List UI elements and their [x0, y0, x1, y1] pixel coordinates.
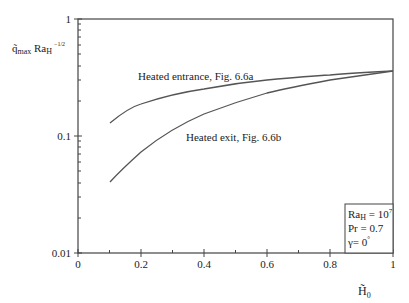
- y-ticks: [74, 19, 82, 253]
- param-ra: RaH = 107: [348, 207, 393, 222]
- x-tick-label: 1: [390, 258, 396, 270]
- y-tick-label: 0.01: [52, 247, 71, 259]
- y-tick-label: 0.1: [57, 130, 71, 142]
- y-axis-label: q̃max RaH−1/2: [12, 41, 65, 56]
- chart: 0 0.2 0.4 0.6 0.8 1 0.01 0.1 1 q̃max RaH…: [0, 0, 409, 303]
- x-tick-label: 0.8: [323, 258, 337, 270]
- curve-heated-exit: [110, 71, 393, 182]
- annotation-heated-exit: Heated exit, Fig. 6.6b: [186, 131, 282, 143]
- param-pr: Pr = 0.7: [348, 222, 384, 234]
- parameter-box: RaH = 107 Pr = 0.7 γ= 0°: [345, 204, 393, 253]
- y-tick-labels: 0.01 0.1 1: [52, 13, 71, 259]
- x-axis-label: H̃0: [358, 284, 371, 300]
- x-tick-labels: 0 0.2 0.4 0.6 0.8 1: [75, 258, 396, 270]
- x-tick-label: 0: [75, 258, 81, 270]
- x-tick-label: 0.2: [134, 258, 148, 270]
- y-tick-label: 1: [66, 13, 72, 25]
- x-tick-label: 0.6: [260, 258, 274, 270]
- param-gamma: γ= 0°: [347, 235, 370, 248]
- x-tick-label: 0.4: [197, 258, 211, 270]
- annotation-heated-entrance: Heated entrance, Fig. 6.6a: [138, 70, 254, 82]
